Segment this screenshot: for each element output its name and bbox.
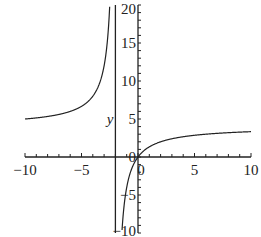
y-tick-label: 15 — [121, 35, 136, 51]
x-tick-label: 5 — [191, 162, 199, 178]
y-tick-label: 10 — [121, 73, 136, 89]
y-tick-label: 20 — [121, 1, 136, 17]
y-tick-label: −10 — [113, 223, 136, 237]
y-tick-label: 5 — [129, 111, 137, 127]
y-tick-label: −5 — [120, 187, 136, 203]
chart: −10−5051020151050−5−10y — [0, 0, 261, 237]
x-tick-label: 0 — [137, 162, 145, 178]
y-tick-label: 0 — [129, 149, 137, 165]
tick-labels: −10−5051020151050−5−10y — [13, 1, 258, 237]
y-axis-label: y — [105, 111, 114, 127]
x-tick-label: −10 — [13, 162, 36, 178]
curve-right-branch — [122, 132, 251, 230]
x-tick-label: −5 — [74, 162, 90, 178]
axes — [25, 5, 251, 233]
x-tick-label: 10 — [244, 162, 259, 178]
curve-left-branch — [25, 7, 110, 119]
